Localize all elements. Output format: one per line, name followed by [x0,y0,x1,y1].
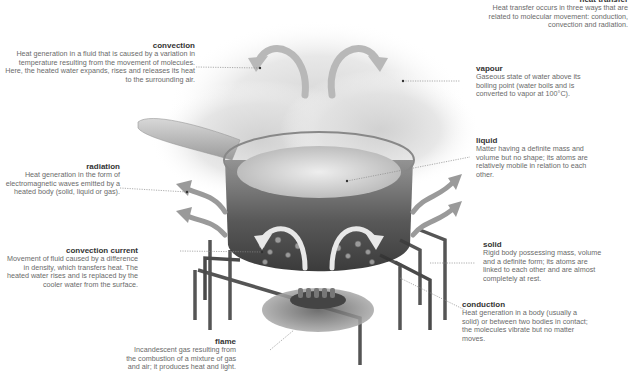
liquid-label: liquid Matter having a definite mass and… [476,136,594,179]
liquid-text: Matter having a definite mass and volume… [476,144,588,179]
solid-label: solid Rigid body possessing mass, volume… [483,240,608,283]
convection-label: convection Heat generation in a fluid th… [3,41,195,84]
heat-transfer-label: heat transfer Heat transfer occurs in th… [478,0,628,30]
conduction-text: Heat generation in a body (usually a sol… [462,308,588,343]
convection-current-text: Movement of fluid caused by a difference… [7,254,138,289]
convection-current-label: convection current Movement of fluid cau… [3,246,138,289]
vapour-label: vapour Gaseous state of water above its … [476,64,586,99]
radiation-label: radiation Heat generation in the form of… [3,162,120,197]
convection-text: Heat generation in a fluid that is cause… [5,49,195,84]
conduction-label: conduction Heat generation in a body (us… [462,300,592,343]
radiation-text: Heat generation in the form of electroma… [6,170,120,196]
water-surface [237,146,401,198]
flame-label: flame Incandescent gas resulting from th… [124,337,236,372]
flame-text: Incandescent gas resulting from the comb… [126,345,236,371]
vapour-text: Gaseous state of water above its boiling… [476,72,581,98]
heat-transfer-text: Heat transfer occurs in three ways that … [489,3,628,29]
solid-text: Rigid body possessing mass, volume and a… [483,248,601,283]
